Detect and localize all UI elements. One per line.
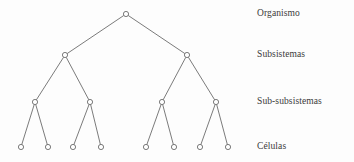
hierarchy-tree-figure: OrganismoSubsistemasSub-subsistemasCélul…	[0, 0, 354, 162]
tree-edge	[217, 105, 228, 145]
tree-node	[123, 11, 128, 16]
tree-node	[159, 99, 164, 104]
tree-node	[197, 144, 202, 149]
tree-graphic	[0, 0, 354, 162]
level-label-2: Sub-subsistemas	[257, 97, 322, 107]
tree-edge	[74, 104, 89, 144]
tree-node	[98, 144, 103, 149]
tree-edge	[22, 104, 34, 144]
tree-edge	[147, 104, 161, 144]
tree-edge	[201, 104, 215, 144]
edge-layer	[22, 15, 228, 144]
tree-node	[45, 144, 50, 149]
tree-edge	[36, 57, 63, 100]
tree-node	[87, 99, 92, 104]
tree-edge	[163, 57, 186, 99]
node-layer	[18, 11, 230, 149]
tree-node	[143, 144, 148, 149]
level-label-0: Organismo	[257, 9, 300, 19]
tree-node	[32, 99, 37, 104]
tree-edge	[91, 105, 101, 145]
level-label-3: Células	[257, 142, 286, 152]
tree-edge	[128, 15, 185, 53]
level-label-1: Subsistemas	[257, 50, 305, 60]
tree-edge	[36, 105, 48, 145]
tree-edge	[66, 57, 89, 99]
tree-node	[171, 144, 176, 149]
tree-node	[225, 144, 230, 149]
tree-edge	[188, 57, 214, 100]
tree-edge	[163, 105, 174, 145]
tree-node	[70, 144, 75, 149]
tree-node	[18, 144, 23, 149]
tree-node	[213, 99, 218, 104]
tree-edge	[67, 15, 124, 53]
tree-node	[62, 52, 67, 57]
tree-node	[184, 52, 189, 57]
